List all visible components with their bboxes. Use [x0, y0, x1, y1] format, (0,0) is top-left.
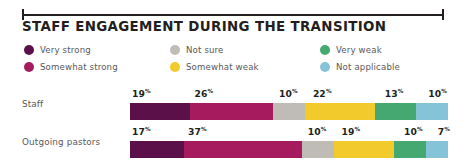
measure-rule-right-cap: [442, 9, 444, 20]
percent-sign: %: [145, 88, 151, 94]
legend-swatch-icon: [320, 45, 330, 55]
percent-sign: %: [444, 126, 450, 132]
legend-item-label: Not sure: [186, 45, 224, 55]
percent-sign: %: [201, 126, 207, 132]
chart-row: Staff19%26%10%22%13%10%: [0, 84, 465, 122]
percent-sign: %: [292, 88, 298, 94]
legend-item-somewhat_strong[interactable]: Somewhat strong: [24, 59, 174, 75]
legend-item-not_sure[interactable]: Not sure: [170, 42, 320, 58]
legend-swatch-icon: [170, 45, 180, 55]
segment-value-number: 37: [188, 126, 201, 137]
bar-segment[interactable]: [130, 141, 184, 158]
legend-swatch-icon: [320, 62, 330, 72]
percent-sign: %: [398, 88, 404, 94]
percent-sign: %: [145, 126, 151, 132]
bar-segment[interactable]: [302, 141, 334, 158]
stacked-bar-area: 19%26%10%22%13%10%: [130, 84, 448, 122]
percent-sign: %: [441, 88, 447, 94]
segment-value-label: 10%: [306, 122, 340, 141]
legend-swatch-icon: [170, 62, 180, 72]
segment-value-number: 10: [428, 88, 441, 99]
segment-value-label: 19%: [340, 122, 402, 141]
segment-value-label: 10%: [402, 122, 436, 141]
legend-swatch-icon: [24, 45, 34, 55]
segment-value-label: 19%: [130, 84, 192, 103]
segment-value-label: 13%: [383, 84, 426, 103]
page-title: STAFF ENGAGEMENT DURING THE TRANSITION: [22, 19, 386, 34]
legend-column: Very strongSomewhat strong: [24, 42, 174, 76]
legend-item-somewhat_weak[interactable]: Somewhat weak: [170, 59, 320, 75]
segment-value-label: 7%: [436, 122, 460, 141]
measure-rule-line: [22, 14, 444, 16]
segment-value-number: 10: [308, 126, 321, 137]
legend-item-very_weak[interactable]: Very weak: [320, 42, 465, 58]
chart-row-label: Staff: [22, 99, 43, 109]
percent-sign: %: [207, 88, 213, 94]
bar-segment[interactable]: [190, 103, 273, 120]
segment-value-number: 22: [313, 88, 326, 99]
chart-rows: Staff19%26%10%22%13%10%Outgoing pastors1…: [0, 84, 465, 160]
segment-value-label: 17%: [130, 122, 186, 141]
legend-item-label: Somewhat weak: [186, 62, 259, 72]
legend-item-label: Very weak: [336, 45, 382, 55]
segment-value-number: 13: [385, 88, 398, 99]
percent-sign: %: [326, 88, 332, 94]
chart-row-label: Outgoing pastors: [22, 137, 100, 147]
segment-value-number: 19: [342, 126, 355, 137]
chart-row: Outgoing pastors17%37%10%19%10%7%: [0, 122, 465, 160]
legend-item-very_strong[interactable]: Very strong: [24, 42, 174, 58]
stacked-bar-area: 17%37%10%19%10%7%: [130, 122, 448, 160]
segment-value-number: 26: [194, 88, 207, 99]
percent-sign: %: [355, 126, 361, 132]
bar-segment[interactable]: [273, 103, 305, 120]
legend-swatch-icon: [24, 62, 34, 72]
legend-item-not_applicable[interactable]: Not applicable: [320, 59, 465, 75]
bar-segment[interactable]: [416, 103, 448, 120]
bar-segment[interactable]: [375, 103, 416, 120]
segment-value-number: 17: [132, 126, 145, 137]
legend-item-label: Not applicable: [336, 62, 400, 72]
segment-value-label: 10%: [277, 84, 311, 103]
segment-value-number: 10: [404, 126, 417, 137]
segment-value-label: 37%: [186, 122, 306, 141]
bar-segment[interactable]: [130, 103, 190, 120]
infographic-panel: STAFF ENGAGEMENT DURING THE TRANSITION V…: [0, 0, 465, 167]
segment-value-label: 10%: [426, 84, 460, 103]
segment-value-number: 10: [279, 88, 292, 99]
legend-column: Very weakNot applicable: [320, 42, 465, 76]
bar-segment[interactable]: [394, 141, 426, 158]
legend: Very strongSomewhat strongNot sureSomewh…: [24, 42, 444, 74]
legend-column: Not sureSomewhat weak: [170, 42, 320, 76]
value-label-strip: 17%37%10%19%10%7%: [130, 122, 448, 141]
legend-item-label: Very strong: [40, 45, 91, 55]
segment-value-label: 22%: [311, 84, 383, 103]
bar-segment[interactable]: [426, 141, 448, 158]
percent-sign: %: [417, 126, 423, 132]
bar-segment[interactable]: [334, 141, 394, 158]
segment-value-label: 26%: [192, 84, 277, 103]
bar-segment[interactable]: [184, 141, 302, 158]
segment-value-number: 19: [132, 88, 145, 99]
legend-item-label: Somewhat strong: [40, 62, 118, 72]
stacked-bar: [130, 141, 448, 158]
stacked-bar: [130, 103, 448, 120]
bar-segment[interactable]: [305, 103, 375, 120]
value-label-strip: 19%26%10%22%13%10%: [130, 84, 448, 103]
percent-sign: %: [321, 126, 327, 132]
